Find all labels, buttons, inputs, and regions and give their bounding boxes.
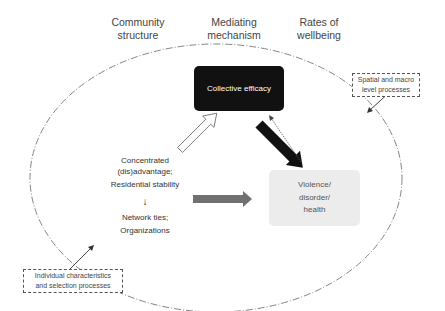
outcome-line: disorder/ [299,192,330,205]
note-line: Spatial and macro [356,75,416,85]
individual-note-pointer [70,245,94,269]
hollow-arrow-structure-to-efficacy [174,108,222,156]
diagram-canvas [0,0,445,311]
node-outcomes: Violence/ disorder/ health [269,170,360,226]
structure-line: Network ties; [95,212,195,223]
outcome-line: health [304,204,326,217]
structure-line: Concentrated [95,155,195,166]
node-community-structure: Concentrated (dis)advantage; Residential… [95,155,195,236]
note-individual-characteristics: Individual characteristics and selection… [23,269,123,293]
gray-arrow-structure-to-outcome [193,191,252,207]
node-collective-efficacy: Collective efficacy [194,66,284,111]
note-line: level processes [356,85,416,95]
structure-line: Residential stability [95,179,195,190]
structure-line: Organizations [95,225,195,236]
note-spatial-macro: Spatial and macro level processes [352,73,420,97]
note-line: and selection processes [27,281,119,291]
black-arrow-efficacy-to-outcome [252,117,310,175]
note-line: Individual characteristics [27,271,119,281]
node-label: Collective efficacy [207,84,271,93]
structure-line: (dis)advantage; [95,166,195,177]
arrow-down-icon: ↓ [95,196,195,207]
outcome-line: Violence/ [298,179,331,192]
